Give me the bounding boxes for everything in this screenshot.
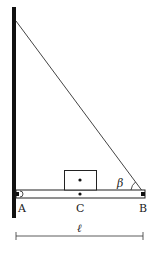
angle-arc	[131, 182, 136, 190]
point-b-label: B	[139, 202, 147, 215]
pin-b	[141, 192, 145, 196]
hinge-a	[16, 192, 19, 196]
rope	[16, 21, 143, 192]
length-label: ℓ	[77, 222, 82, 235]
point-a-label: A	[17, 202, 27, 215]
box-center-dot	[78, 178, 81, 181]
wall	[12, 7, 16, 218]
angle-label: β	[116, 177, 123, 190]
point-c-label: C	[76, 202, 84, 215]
beam-center-dot	[78, 192, 81, 195]
beam-diagram: β A C B ℓ	[0, 0, 161, 254]
